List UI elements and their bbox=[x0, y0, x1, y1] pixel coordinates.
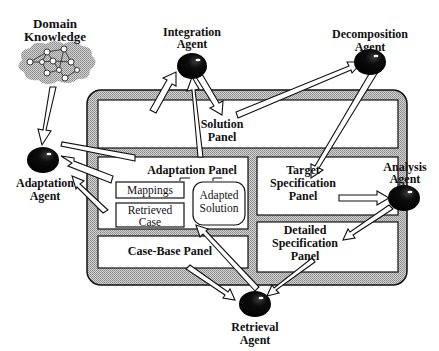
adaptation-agent-label: Adaptation bbox=[16, 176, 74, 190]
detailed-spec-panel-label-line3: Panel bbox=[291, 249, 320, 263]
retrieval-agent-icon bbox=[239, 291, 271, 317]
solution-panel-label: Solution bbox=[201, 117, 244, 131]
retrieved-case-label-line2: Case bbox=[139, 216, 161, 228]
decomposition-agent-label: Decomposition bbox=[332, 27, 408, 41]
adapted-solution-label: Adapted bbox=[200, 189, 239, 202]
analysis-agent-icon bbox=[388, 185, 420, 211]
domain-knowledge-label-line2: Knowledge bbox=[24, 29, 86, 44]
integration-agent-label-line2: Agent bbox=[177, 37, 208, 51]
integration-agent-icon bbox=[177, 53, 207, 79]
adaptation-agent-label-line2: Agent bbox=[30, 189, 61, 203]
adapted-solution-label-line2: Solution bbox=[200, 202, 239, 214]
adaptation-panel-title: Adaptation Panel bbox=[147, 163, 237, 177]
retrieval-agent-label-line2: Agent bbox=[240, 333, 271, 347]
target-spec-panel-label: Target bbox=[286, 163, 320, 177]
adaptation-agent-icon bbox=[27, 147, 59, 173]
target-spec-panel-label-line3: Panel bbox=[289, 189, 318, 203]
decomposition-agent-label-line2: Agent bbox=[355, 40, 386, 54]
case-base-panel-label: Case-Base Panel bbox=[128, 244, 213, 258]
analysis-agent-label-line2: Agent bbox=[390, 172, 421, 186]
mappings-label: Mappings bbox=[127, 184, 174, 197]
domain-knowledge-cloud-icon bbox=[18, 41, 95, 84]
retrieval-agent-label: Retrieval bbox=[231, 320, 279, 334]
detailed-spec-panel-label-line2: Specification bbox=[272, 236, 338, 250]
detailed-spec-panel-label: Detailed bbox=[284, 223, 327, 237]
architecture-diagram: Domain Knowledge Integration Agent Decom… bbox=[0, 0, 439, 351]
target-spec-panel-label-line2: Specification bbox=[270, 176, 336, 190]
solution-panel-label-line2: Panel bbox=[208, 130, 237, 144]
retrieved-case-label: Retrieved bbox=[128, 204, 173, 216]
